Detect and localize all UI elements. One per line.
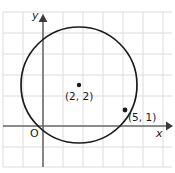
- center-point-label: (2, 2): [65, 91, 93, 102]
- origin-label: O: [30, 128, 39, 139]
- y-axis-label: y: [32, 10, 39, 21]
- circle-graph-figure: y x O (2, 2) (5, 1): [0, 0, 175, 173]
- circle-point-marker: [123, 108, 128, 113]
- circle-point-label: (5, 1): [128, 112, 156, 123]
- x-axis-label: x: [156, 128, 163, 139]
- coordinate-plane: [0, 0, 175, 173]
- center-point-marker: [77, 83, 81, 87]
